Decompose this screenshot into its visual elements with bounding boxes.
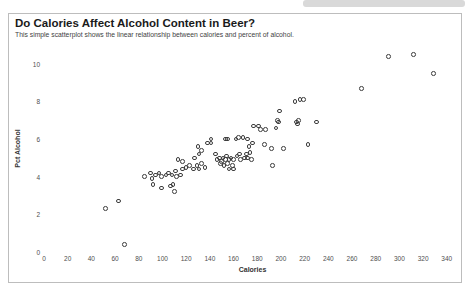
- data-point[interactable]: [103, 206, 108, 211]
- x-tick-label: 100: [157, 255, 168, 262]
- data-point[interactable]: [116, 199, 121, 204]
- data-point[interactable]: [301, 97, 306, 102]
- y-tick-label: 10: [14, 60, 40, 67]
- data-point[interactable]: [192, 156, 197, 161]
- chart-container: Do Calories Affect Alcohol Content in Be…: [8, 13, 462, 283]
- data-point[interactable]: [270, 163, 275, 168]
- data-point[interactable]: [411, 52, 416, 57]
- data-point[interactable]: [142, 174, 147, 179]
- x-tick-label: 320: [418, 255, 429, 262]
- data-point[interactable]: [296, 118, 301, 123]
- x-tick-label: 60: [111, 255, 118, 262]
- data-point[interactable]: [386, 54, 391, 59]
- data-point[interactable]: [314, 120, 319, 125]
- data-point[interactable]: [237, 152, 242, 157]
- data-point[interactable]: [171, 182, 176, 187]
- chart-subtitle: This simple scatterplot shows the linear…: [15, 31, 294, 38]
- data-point[interactable]: [159, 186, 164, 191]
- data-point[interactable]: [231, 167, 236, 172]
- data-point[interactable]: [150, 176, 155, 181]
- data-point[interactable]: [276, 120, 281, 125]
- chart-title: Do Calories Affect Alcohol Content in Be…: [15, 17, 255, 29]
- y-axis-title: Pct Alcohol: [14, 79, 21, 219]
- data-point[interactable]: [236, 135, 241, 140]
- x-tick-label: 80: [135, 255, 142, 262]
- data-point[interactable]: [209, 141, 214, 146]
- x-tick-label: 0: [42, 255, 46, 262]
- x-tick-label: 240: [323, 255, 334, 262]
- data-point[interactable]: [277, 109, 282, 114]
- data-point[interactable]: [172, 189, 177, 194]
- data-point[interactable]: [245, 137, 250, 142]
- data-point[interactable]: [431, 71, 436, 76]
- data-point[interactable]: [209, 137, 214, 142]
- data-point[interactable]: [180, 159, 185, 164]
- data-point[interactable]: [281, 146, 286, 151]
- data-point[interactable]: [247, 144, 252, 149]
- plot-area: [44, 45, 461, 252]
- x-tick-label: 20: [64, 255, 71, 262]
- data-point[interactable]: [151, 182, 156, 187]
- x-tick-label: 200: [275, 255, 286, 262]
- data-point[interactable]: [249, 157, 254, 162]
- x-tick-label: 340: [441, 255, 452, 262]
- data-point[interactable]: [225, 137, 230, 142]
- data-point[interactable]: [197, 167, 202, 172]
- data-point[interactable]: [199, 148, 204, 153]
- x-tick-label: 220: [299, 255, 310, 262]
- data-point[interactable]: [263, 127, 268, 132]
- x-tick-label: 260: [347, 255, 358, 262]
- data-point[interactable]: [269, 146, 274, 151]
- data-point[interactable]: [203, 165, 208, 170]
- data-point[interactable]: [248, 150, 253, 155]
- data-point[interactable]: [173, 169, 178, 174]
- data-point[interactable]: [359, 86, 364, 91]
- data-point[interactable]: [231, 157, 236, 162]
- data-point[interactable]: [178, 173, 183, 178]
- x-tick-label: 140: [204, 255, 215, 262]
- x-tick-label: 40: [88, 255, 95, 262]
- x-tick-label: 180: [252, 255, 263, 262]
- data-point[interactable]: [250, 141, 255, 146]
- data-point[interactable]: [274, 126, 279, 131]
- y-tick-label: 0: [14, 249, 40, 256]
- data-point[interactable]: [306, 142, 311, 147]
- x-tick-label: 120: [181, 255, 192, 262]
- data-point[interactable]: [159, 174, 164, 179]
- x-tick-label: 300: [394, 255, 405, 262]
- data-point[interactable]: [293, 99, 298, 104]
- x-tick-label: 160: [228, 255, 239, 262]
- window-edge-artifact: [303, 0, 465, 7]
- data-point[interactable]: [262, 142, 267, 147]
- x-tick-label: 280: [370, 255, 381, 262]
- x-axis-title: Calories: [44, 266, 461, 273]
- data-point[interactable]: [122, 242, 127, 247]
